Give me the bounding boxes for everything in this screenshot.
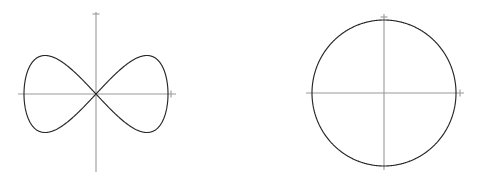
parametric-plot-circle [239,0,478,178]
figure-panel [0,0,478,178]
parametric-plot-figure-eight [0,0,239,178]
figure-eight-svg [0,0,239,178]
circle-svg [239,0,478,178]
